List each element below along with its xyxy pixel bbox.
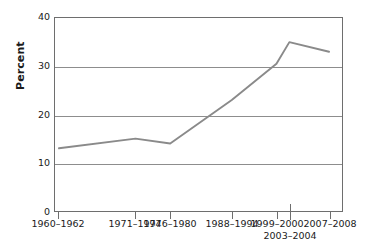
plot-area (54, 17, 343, 212)
series-line-percent (55, 18, 342, 211)
x-axis-tick-labels: 1960–19621971–19741976–19801988–19941999… (0, 218, 380, 246)
x-tick-label: 2007–2008 (304, 218, 357, 229)
y-tick-label: 40 (28, 12, 50, 22)
line-chart: Percent 403020100 1960–19621971–19741976… (0, 0, 380, 246)
x-tick-label: 2003–2004 (264, 230, 317, 241)
x-tick-label: 1976–1980 (144, 218, 197, 229)
y-tick-label: 20 (28, 110, 50, 120)
x-tick-label: 1999–2000 (251, 218, 304, 229)
x-tick-label: 1960–1962 (32, 218, 85, 229)
y-axis-tick-labels: 403020100 (28, 0, 50, 246)
y-tick-label: 10 (28, 158, 50, 168)
y-tick-label: 30 (28, 61, 50, 71)
